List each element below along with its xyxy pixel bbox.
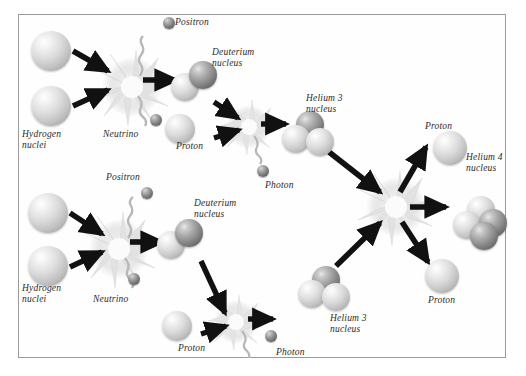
particle-hydrogen-2 (31, 86, 71, 126)
diagram-canvas: PositronDeuterium nucleusHydrogen nuclei… (0, 0, 526, 376)
nucleon-neutron (175, 219, 203, 247)
cluster-helium3-1 (282, 111, 340, 161)
nucleon-proton (322, 283, 350, 311)
particle-proton-out-1 (433, 131, 467, 165)
label-positron-top: Positron (175, 17, 209, 28)
particle-proton-b (162, 311, 192, 341)
label-proton-upper-right: Proton (425, 121, 452, 132)
label-hydrogen-bottom: Hydrogen nuclei (22, 283, 61, 305)
cluster-helium4 (453, 196, 515, 254)
particle-photon-1 (257, 165, 269, 177)
cluster-deuterium-2 (157, 219, 209, 259)
particle-positron-2 (141, 187, 153, 199)
label-helium4: Helium 4 nucleus (466, 152, 503, 174)
label-hydrogen-top: Hydrogen nuclei (22, 129, 61, 151)
cluster-helium3-2 (298, 266, 356, 316)
label-helium3-bottom: Helium 3 nucleus (330, 313, 367, 335)
label-deuterium-top: Deuterium nucleus (212, 47, 254, 69)
particle-positron-1 (163, 17, 175, 29)
label-photon-top: Photon (265, 180, 294, 191)
burst-bottom-left (81, 212, 157, 288)
particle-hydrogen-3 (28, 193, 68, 233)
label-positron-mid: Positron (106, 172, 140, 183)
label-helium3-top: Helium 3 nucleus (306, 93, 343, 115)
label-neutrino-bottom: Neutrino (93, 294, 128, 305)
burst-top-right (221, 100, 277, 155)
label-photon-bottom: Photon (276, 347, 305, 358)
particle-hydrogen-1 (31, 31, 71, 71)
particle-photon-2 (265, 330, 277, 342)
label-proton-lower-right: Proton (428, 295, 455, 306)
particle-hydrogen-4 (28, 246, 68, 286)
particle-proton-out-2 (425, 259, 459, 293)
nucleon-proton (306, 128, 334, 156)
arrow-hydrogen1-to-burst1 (73, 51, 108, 71)
arrow-deuterium2-to-burst4 (201, 261, 225, 313)
label-neutrino-top: Neutrino (103, 129, 138, 140)
label-proton-bottom-left: Proton (178, 343, 205, 354)
label-proton-top-left: Proton (176, 141, 203, 152)
diagram-frame (18, 14, 506, 358)
arrow-hydrogen2-to-burst1 (73, 90, 108, 106)
particle-proton-a (165, 114, 195, 144)
label-deuterium-bottom: Deuterium nucleus (194, 198, 236, 220)
particle-neutrino-2 (128, 273, 140, 285)
particle-neutrino-1 (150, 114, 162, 126)
nucleon-neutron (470, 222, 498, 250)
arrow-helium3-2-to-center (336, 223, 380, 266)
burst-bottom-right (208, 295, 264, 350)
